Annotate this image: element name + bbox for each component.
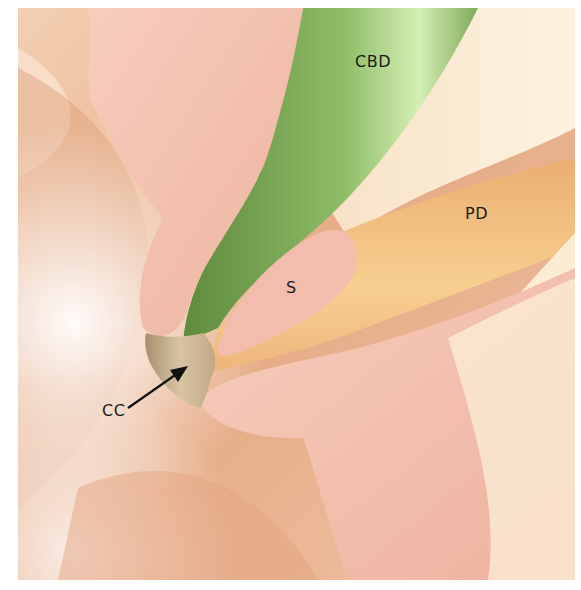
label-pd: PD (465, 204, 488, 223)
label-s: S (286, 278, 297, 297)
label-cbd: CBD (355, 52, 391, 71)
label-cc: CC (102, 401, 125, 420)
illustration-frame: CBD PD S CC (18, 8, 575, 580)
